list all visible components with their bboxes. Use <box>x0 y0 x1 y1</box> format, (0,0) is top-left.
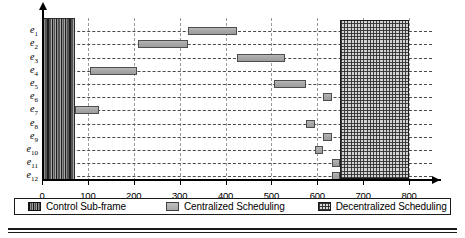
decentralized-swatch-icon <box>318 202 331 211</box>
centralized-bar-e2 <box>138 40 188 48</box>
vertical-gridline <box>409 18 410 181</box>
x-tick-mark <box>271 181 272 185</box>
y-axis-line <box>42 8 44 181</box>
y-axis-arrow <box>39 2 47 10</box>
y-tick-label-e12: e12 <box>27 169 38 183</box>
x-axis-arrow <box>432 176 440 184</box>
centralized-bar-e7 <box>75 106 99 114</box>
chart-legend: Control Sub-frame Centralized Scheduling… <box>14 198 451 215</box>
y-tick-label-e5: e5 <box>30 77 38 91</box>
centralized-bar-e11 <box>332 159 340 167</box>
legend-item-centralized-scheduling: Centralized Scheduling <box>166 201 285 212</box>
x-tick-mark <box>226 181 227 185</box>
y-tick-label-e1: e1 <box>30 24 38 38</box>
y-tick-label-e7: e7 <box>30 103 38 117</box>
x-tick-mark <box>134 181 135 185</box>
vertical-gridline <box>134 18 135 181</box>
legend-item-decentralized-scheduling: Decentralized Scheduling <box>318 201 447 212</box>
x-tick-mark <box>363 181 364 185</box>
centralized-bar-e5 <box>274 80 306 88</box>
control-swatch-icon <box>28 202 41 211</box>
legend-label-control-sub-frame: Control Sub-frame <box>46 201 126 212</box>
vertical-gridline <box>271 18 272 181</box>
x-tick-mark <box>88 181 89 185</box>
y-tick-label-e2: e2 <box>30 37 38 51</box>
footer-rule-top <box>8 228 457 230</box>
plot-area: 0100200300400500600700800 e1e2e3e4e5e6e7… <box>42 18 432 181</box>
x-tick-mark <box>409 181 410 185</box>
centralized-bar-e4 <box>90 67 137 75</box>
x-tick-mark <box>180 181 181 185</box>
centralized-bar-e9 <box>323 133 332 141</box>
control-sub-frame-block <box>42 18 75 181</box>
gantt-schedule-figure: 0100200300400500600700800 e1e2e3e4e5e6e7… <box>0 0 465 238</box>
decentralized-scheduling-block <box>340 20 409 179</box>
vertical-gridline <box>88 18 89 181</box>
y-tick-label-e9: e9 <box>30 130 38 144</box>
y-tick-label-e6: e6 <box>30 90 38 104</box>
y-tick-label-e3: e3 <box>30 51 38 65</box>
y-tick-label-e10: e10 <box>27 143 38 157</box>
x-axis-line <box>42 179 441 181</box>
footer-rule-bottom <box>8 232 457 233</box>
centralized-bar-e6 <box>323 93 332 101</box>
centralized-bar-e1 <box>188 27 237 35</box>
y-tick-label-e8: e8 <box>30 117 38 131</box>
y-tick-label-e11: e11 <box>27 156 38 170</box>
legend-label-centralized-scheduling: Centralized Scheduling <box>184 201 285 212</box>
vertical-gridline <box>226 18 227 181</box>
y-tick-label-e4: e4 <box>30 64 38 78</box>
x-tick-mark <box>317 181 318 185</box>
centralized-swatch-icon <box>166 202 179 211</box>
x-tick-mark <box>42 181 43 185</box>
centralized-bar-e10 <box>315 146 324 154</box>
legend-label-decentralized-scheduling: Decentralized Scheduling <box>336 201 447 212</box>
vertical-gridline <box>317 18 318 181</box>
legend-item-control-sub-frame: Control Sub-frame <box>28 201 126 212</box>
centralized-bar-e8 <box>306 120 315 128</box>
centralized-bar-e3 <box>237 54 285 62</box>
